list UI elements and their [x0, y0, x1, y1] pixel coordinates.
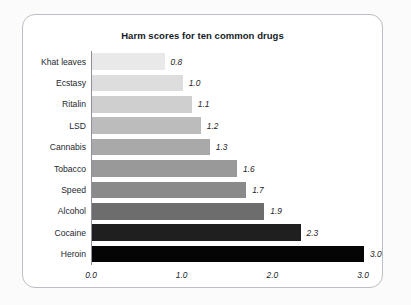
bar-value-label: 2.3	[307, 228, 319, 238]
bar-value-label: 1.1	[198, 99, 210, 109]
bar-row: Alcohol1.9	[91, 201, 363, 222]
bar	[92, 75, 183, 92]
bar	[92, 224, 301, 241]
chart-title: Harm scores for ten common drugs	[23, 30, 382, 41]
bar	[92, 96, 192, 113]
bar-row: Heroin3.0	[91, 244, 363, 265]
chart-card: Harm scores for ten common drugs Khat le…	[22, 14, 383, 288]
x-axis: 0.01.02.03.0	[91, 267, 363, 289]
bar-value-label: 3.0	[370, 249, 382, 259]
category-label: Ecstasy	[56, 78, 86, 88]
bar	[92, 203, 264, 220]
bar-value-label: 1.9	[270, 206, 282, 216]
category-label: Alcohol	[58, 206, 86, 216]
bar-value-label: 1.6	[243, 164, 255, 174]
bar-row: Speed1.7	[91, 179, 363, 200]
bar	[92, 246, 364, 263]
bar-value-label: 0.8	[171, 57, 183, 67]
bar-row: LSD1.2	[91, 115, 363, 136]
bar-value-label: 1.0	[189, 78, 201, 88]
category-label: Heroin	[61, 249, 86, 259]
bar-row: Cocaine2.3	[91, 222, 363, 243]
bar-value-label: 1.2	[207, 121, 219, 131]
category-label: Speed	[61, 185, 86, 195]
bar	[92, 117, 201, 134]
category-label: Cannabis	[50, 142, 86, 152]
category-label: LSD	[69, 121, 86, 131]
bar-row: Cannabis1.3	[91, 137, 363, 158]
category-label: Cocaine	[54, 228, 86, 238]
x-tick-label: 0.0	[85, 270, 97, 280]
bar-value-label: 1.3	[216, 142, 228, 152]
bar-row: Ritalin1.1	[91, 94, 363, 115]
bar-row: Tobacco1.6	[91, 158, 363, 179]
bar-row: Khat leaves0.8	[91, 51, 363, 72]
x-tick-label: 2.0	[267, 270, 279, 280]
bar	[92, 160, 237, 177]
bar	[92, 139, 210, 156]
bar	[92, 53, 165, 70]
category-label: Khat leaves	[41, 57, 86, 67]
plot-area: Khat leaves0.8Ecstasy1.0Ritalin1.1LSD1.2…	[91, 51, 363, 265]
bar	[92, 182, 246, 199]
category-label: Ritalin	[62, 99, 86, 109]
x-tick-label: 1.0	[176, 270, 188, 280]
x-tick-label: 3.0	[357, 270, 369, 280]
category-label: Tobacco	[54, 164, 86, 174]
bar-row: Ecstasy1.0	[91, 72, 363, 93]
bar-value-label: 1.7	[252, 185, 264, 195]
